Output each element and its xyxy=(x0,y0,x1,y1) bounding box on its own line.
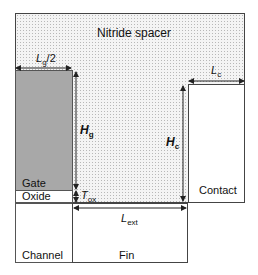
hc-dimension-label: Hc xyxy=(166,135,179,151)
oxide-label: Oxide xyxy=(22,190,51,202)
nitride-spacer-label: Nitride spacer xyxy=(97,26,171,40)
tox-dimension-label: Tox xyxy=(81,189,96,204)
lg-half-dimension-label: Lg/2 xyxy=(36,52,56,67)
contact-label: Contact xyxy=(199,184,237,196)
hg-dimension-label: Hg xyxy=(80,123,94,139)
lext-dimension-label: Lext xyxy=(121,212,138,227)
gate-label: Gate xyxy=(22,177,46,189)
lc-dimension-label: Lc xyxy=(211,64,221,79)
channel-label: Channel xyxy=(22,249,63,261)
dimension-arrows xyxy=(0,0,258,275)
fin-label: Fin xyxy=(119,249,134,261)
